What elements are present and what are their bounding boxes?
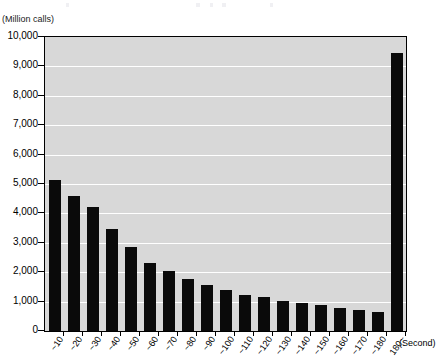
bar — [87, 207, 99, 331]
y-axis-tick-label: 6,000 — [13, 149, 38, 159]
bar — [144, 263, 156, 332]
bar — [68, 196, 80, 331]
y-axis-tick-label: 4,000 — [13, 207, 38, 217]
bar — [391, 53, 403, 331]
plot-area — [44, 36, 407, 332]
y-axis-tick-label: 1,000 — [13, 296, 38, 306]
bar — [49, 180, 61, 331]
y-axis-tick-labels: 10,0009,0008,0007,0006,0005,0004,0003,00… — [0, 0, 42, 358]
y-axis-tick-label: 8,000 — [13, 90, 38, 100]
y-axis-tick-label: 9,000 — [13, 60, 38, 70]
bar — [106, 229, 118, 331]
bars-layer — [45, 37, 406, 331]
y-axis-tick-label: 5,000 — [13, 178, 38, 188]
bar — [182, 279, 194, 331]
y-axis-tick-label: 3,000 — [13, 237, 38, 247]
bar — [125, 247, 137, 331]
y-axis-tick-label: 10,000 — [7, 31, 38, 41]
bar — [163, 271, 175, 331]
x-axis-unit-label: (Second) — [399, 339, 436, 348]
page-top-artifact — [0, 0, 428, 10]
x-axis-tick-labels: ~10~20~30~40~50~60~70~80~90~100~110~120~… — [44, 332, 407, 358]
y-axis-tick-label: 7,000 — [13, 119, 38, 129]
y-axis-tick-label: 2,000 — [13, 266, 38, 276]
